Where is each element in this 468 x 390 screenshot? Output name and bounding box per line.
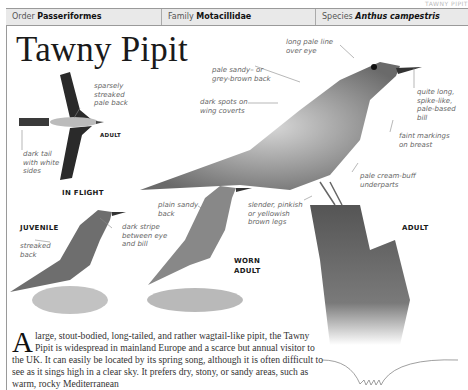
annotation-bill: quite long, spike-like, pale-based bill xyxy=(417,88,461,122)
annotation-back: pale sandy– or grey-brown back xyxy=(212,66,282,83)
wooden-post xyxy=(310,205,410,345)
flight-adult-tag: ADULT xyxy=(100,132,121,138)
annotation-wing-coverts: dark spots on wing coverts xyxy=(200,98,254,115)
adult-tag: ADULT xyxy=(402,224,429,232)
song-sonogram xyxy=(322,360,458,385)
annotation-pale-line: long pale line over eye xyxy=(286,38,348,55)
species-description: A large, stout-bodied, long-tailed, and … xyxy=(12,330,324,390)
drop-cap: A xyxy=(12,331,33,353)
annotation-streaked-back: streaked back xyxy=(20,242,56,259)
description-text: large, stout-bodied, long-tailed, and ra… xyxy=(12,330,323,389)
in-flight-caption: IN FLIGHT xyxy=(62,189,104,197)
annotation-underparts: pale cream-buff underparts xyxy=(360,172,420,189)
juvenile-tag: JUVENILE xyxy=(20,224,59,232)
annotation-dark-tail: dark tail with white sides xyxy=(23,150,63,176)
worn-adult-tag: WORN ADULT xyxy=(234,256,270,276)
annotation-dark-stripe: dark stripe between eye and bill xyxy=(122,223,170,249)
annotation-plain-sandy: plain sandy back xyxy=(158,201,202,218)
annotation-legs: slender, pinkish or yellowish brown legs xyxy=(248,201,304,227)
annotation-sparsely-streaked: sparsely streaked pale back xyxy=(94,82,134,108)
annotation-breast: faint markings on breast xyxy=(399,132,455,149)
